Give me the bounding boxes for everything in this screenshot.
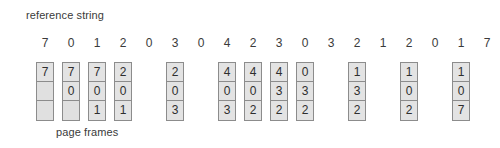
page-frame-cell: 4 [245,63,261,82]
page-frame-cell: 0 [453,82,469,101]
page-frame-column: 432 [270,62,288,121]
reference-string-value: 0 [192,36,210,51]
page-frame-cell: 0 [115,82,131,101]
reference-string-value: 7 [478,36,496,51]
page-frame-cell: 2 [271,101,287,120]
page-frame-cell: 1 [401,63,417,82]
reference-string-label: reference string [26,9,104,21]
page-frame-column: 402 [244,62,262,121]
reference-string-value: 0 [62,36,80,51]
page-frame-cell: 7 [37,63,53,82]
page-frame-cell-empty [63,101,79,120]
page-frame-cell: 3 [271,82,287,101]
reference-string-value: 1 [374,36,392,51]
reference-string-value: 7 [36,36,54,51]
reference-string-value: 2 [114,36,132,51]
page-frame-cell: 4 [219,63,235,82]
reference-string-value: 2 [348,36,366,51]
page-frame-cell: 2 [297,101,313,120]
page-frame-cell: 2 [401,101,417,120]
page-frame-cell: 4 [271,63,287,82]
page-frame-cell: 0 [219,82,235,101]
page-replacement-figure: reference string 70120304230321201701 77… [0,0,500,148]
page-frame-column: 032 [296,62,314,121]
page-frame-cell: 3 [297,82,313,101]
page-frame-cell: 0 [297,63,313,82]
page-frame-column: 7 [36,62,54,121]
page-frame-column: 102 [400,62,418,121]
page-frame-column: 132 [348,62,366,121]
page-frame-cell: 2 [115,63,131,82]
reference-string-value: 2 [244,36,262,51]
page-frame-column: 201 [114,62,132,121]
page-frame-cell: 0 [245,82,261,101]
page-frame-cell: 1 [115,101,131,120]
reference-string-value: 3 [270,36,288,51]
reference-string-value: 0 [426,36,444,51]
page-frame-cell: 2 [349,101,365,120]
page-frame-cell: 1 [349,63,365,82]
page-frame-column: 203 [166,62,184,121]
page-frame-cell: 7 [453,101,469,120]
reference-string-value: 2 [400,36,418,51]
page-frame-cell: 3 [167,101,183,120]
page-frame-column: 701 [88,62,106,121]
reference-string-value: 4 [218,36,236,51]
page-frame-cell: 2 [167,63,183,82]
reference-string-value: 1 [452,36,470,51]
page-frame-cell: 7 [63,63,79,82]
page-frame-cell: 3 [349,82,365,101]
reference-string-value: 1 [88,36,106,51]
page-frames-row: 770701201203403402432032132102107 [0,62,500,122]
page-frame-cell: 3 [219,101,235,120]
reference-string-value: 3 [166,36,184,51]
page-frame-cell-empty [37,101,53,120]
page-frame-column: 70 [62,62,80,121]
page-frame-column: 403 [218,62,236,121]
page-frame-cell: 1 [453,63,469,82]
reference-string-row: 70120304230321201701 [0,36,500,52]
page-frame-cell: 0 [63,82,79,101]
reference-string-value: 3 [322,36,340,51]
page-frame-cell-empty [37,82,53,101]
reference-string-value: 0 [140,36,158,51]
reference-string-value: 0 [296,36,314,51]
page-frame-cell: 0 [167,82,183,101]
page-frames-label: page frames [56,126,118,138]
page-frame-column: 107 [452,62,470,121]
page-frame-cell: 0 [401,82,417,101]
page-frame-cell: 0 [89,82,105,101]
page-frame-cell: 1 [89,101,105,120]
page-frame-cell: 2 [245,101,261,120]
page-frame-cell: 7 [89,63,105,82]
